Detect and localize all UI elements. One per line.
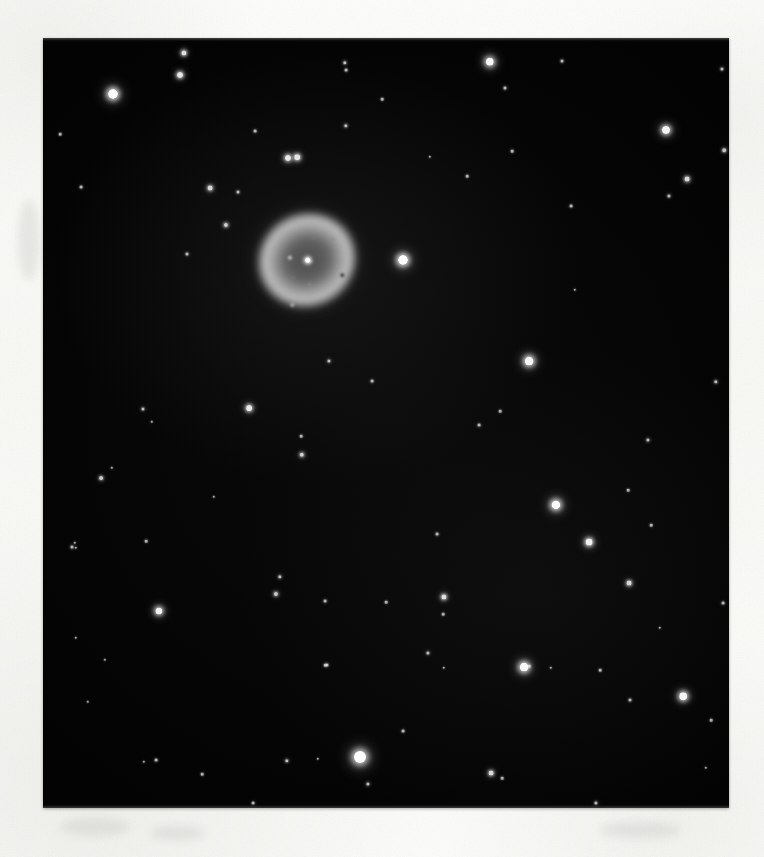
plate-top-trim-edge xyxy=(43,38,729,41)
paper-smudge xyxy=(600,822,680,838)
photo-print-page xyxy=(0,0,764,857)
plate-bottom-trim-edge xyxy=(43,805,729,808)
photographic-plate xyxy=(43,38,729,808)
ring-nebula-m57 xyxy=(235,189,379,332)
paper-smudge xyxy=(150,826,205,840)
nebula-layer xyxy=(43,38,729,808)
paper-smudge xyxy=(60,818,130,836)
plate-emulsion xyxy=(43,38,729,808)
paper-smudge xyxy=(18,200,40,280)
